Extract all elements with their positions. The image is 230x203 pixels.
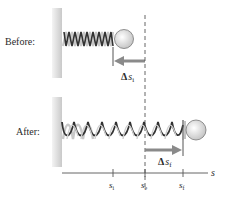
initial-displacement-label: Δsi bbox=[121, 71, 134, 84]
after-wall bbox=[52, 97, 62, 167]
after-ball bbox=[186, 120, 206, 140]
axis-label: s bbox=[211, 167, 215, 178]
after-panel: After: Δsf bbox=[16, 97, 206, 169]
tick-label-si: si bbox=[109, 180, 115, 191]
after-label: After: bbox=[16, 126, 40, 137]
s-axis: s si se sf bbox=[62, 167, 215, 191]
before-spring bbox=[63, 32, 113, 46]
before-panel: Before: Δsi bbox=[5, 8, 145, 84]
final-displacement-label: Δsf bbox=[158, 156, 172, 169]
before-wall bbox=[52, 8, 62, 78]
before-ball bbox=[115, 30, 134, 49]
tick-label-sf: sf bbox=[179, 180, 185, 191]
initial-displacement-arrow bbox=[113, 47, 145, 66]
final-displacement-arrow bbox=[145, 140, 183, 156]
before-label: Before: bbox=[5, 36, 35, 47]
spring-diagram: Before: Δsi After: bbox=[0, 0, 230, 203]
after-spring bbox=[62, 120, 185, 140]
tick-label-se: se bbox=[141, 180, 148, 191]
